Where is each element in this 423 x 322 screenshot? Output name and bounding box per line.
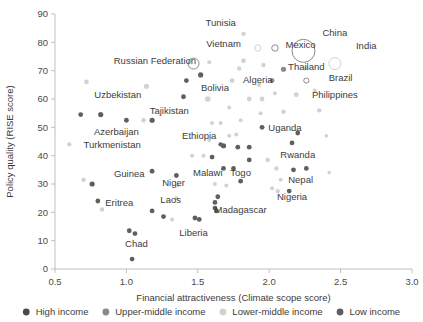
data-point[interactable] [281,67,286,72]
data-point[interactable] [261,63,265,67]
y-tick-label: 0 [43,263,48,274]
data-point[interactable] [141,118,145,122]
data-point[interactable] [90,181,95,186]
data-point[interactable] [198,72,203,77]
x-axis-title: Financial attractiveness (Climate scope … [136,292,330,303]
data-point[interactable] [294,92,299,97]
data-point[interactable] [213,182,217,186]
data-point-label: China [322,27,348,38]
data-point[interactable] [237,66,241,70]
legend-marker-low_income[interactable] [337,309,344,316]
legend-label-low_income[interactable]: Low income [349,306,400,317]
data-point-label: Liberia [179,227,208,238]
data-point[interactable] [95,199,100,204]
data-point[interactable] [241,58,246,63]
data-point[interactable] [304,166,309,171]
data-point[interactable] [241,32,245,36]
data-point[interactable] [227,106,231,110]
data-point[interactable] [273,91,277,95]
y-tick-label: 80 [37,37,48,48]
data-point[interactable] [227,134,231,138]
data-point[interactable] [259,111,263,115]
data-point[interactable] [181,94,186,99]
data-point[interactable] [184,78,189,83]
data-point[interactable] [235,145,240,150]
data-point[interactable] [127,228,132,233]
x-tick-label: 1.5 [191,276,204,287]
data-point[interactable] [270,186,274,190]
data-point-label: Azerbaijan [94,126,139,137]
data-point[interactable] [266,158,270,162]
legend-label-lower_middle_income[interactable]: Lower-middle income [232,306,322,317]
legend-marker-high_income[interactable] [23,309,30,316]
data-point-label: Bolivia [201,82,230,93]
data-point-label: Vietnam [206,38,241,49]
data-point[interactable] [304,78,309,83]
data-point[interactable] [205,96,211,102]
legend-marker-lower_middle_income[interactable] [220,309,227,316]
y-tick-label: 20 [37,207,48,218]
data-point[interactable] [255,45,261,51]
legend-label-high_income[interactable]: High income [36,306,89,317]
legend-label-upper_middle_income[interactable]: Upper-middle income [115,306,205,317]
data-point[interactable] [230,78,235,83]
data-point[interactable] [218,142,222,146]
point-labels: ChinaIndiaTunisiaVietnamMexicoRussian Fe… [84,17,378,249]
data-point[interactable] [215,194,220,199]
data-point[interactable] [190,154,194,158]
data-point-label: Ethiopia [182,130,217,141]
data-point[interactable] [291,167,296,172]
data-point[interactable] [150,209,155,214]
data-point[interactable] [67,142,71,146]
data-point[interactable] [327,171,331,175]
data-point-label: Eritrea [105,197,134,208]
data-point-label: Turkmenistan [84,139,141,150]
data-point[interactable] [290,141,295,146]
data-point[interactable] [234,132,238,136]
data-point[interactable] [144,84,149,89]
data-point[interactable] [247,97,252,102]
data-point[interactable] [81,178,85,182]
legend-marker-upper_middle_income[interactable] [102,309,109,316]
data-point[interactable] [279,178,283,182]
data-point[interactable] [133,231,138,236]
data-point[interactable] [238,179,243,184]
data-point[interactable] [124,118,129,123]
data-point[interactable] [281,110,285,114]
data-point[interactable] [100,207,104,211]
data-point[interactable] [130,257,135,262]
data-point[interactable] [202,154,206,158]
data-point-label: Mexico [286,39,316,50]
data-point[interactable] [224,183,228,187]
data-point[interactable] [247,145,252,150]
data-point[interactable] [84,80,89,85]
y-tick-label: 30 [37,178,48,189]
data-point-label: Tunisia [206,17,237,28]
data-point[interactable] [274,166,278,170]
chart-legend[interactable]: High incomeUpper-middle incomeLower-midd… [23,306,400,317]
data-point-label: Brazil [329,72,353,83]
data-point[interactable] [260,125,265,130]
data-point[interactable] [150,118,155,123]
data-point[interactable] [210,155,215,160]
data-point[interactable] [239,118,243,122]
data-point[interactable] [219,121,223,125]
x-tick-label: 0.5 [48,276,61,287]
data-point[interactable] [329,58,341,70]
data-point[interactable] [247,158,252,163]
data-point-label: Algeria [243,74,273,85]
data-point[interactable] [272,45,278,51]
data-point[interactable] [161,214,166,219]
data-point[interactable] [193,216,198,221]
data-point[interactable] [317,108,321,112]
data-point[interactable] [207,60,211,64]
data-point[interactable] [260,97,265,102]
data-point[interactable] [78,112,83,117]
data-point[interactable] [197,217,202,222]
data-point[interactable] [325,134,329,138]
data-point[interactable] [170,217,174,221]
data-point[interactable] [150,169,155,174]
data-point-label: Tajikistan [150,105,189,116]
data-point[interactable] [210,121,214,125]
data-point[interactable] [98,112,103,117]
